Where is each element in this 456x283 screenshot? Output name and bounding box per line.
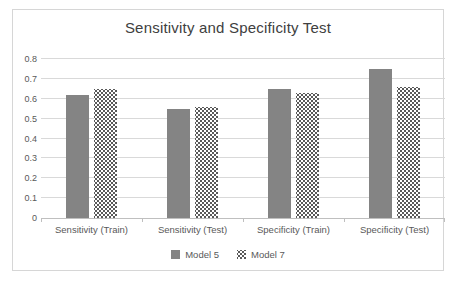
x-category-label: Sensitivity (Test) [142, 224, 243, 235]
x-axis-tick [142, 218, 143, 222]
bar-model-7-1 [94, 89, 117, 218]
y-tick-label: 0.4 [0, 134, 37, 144]
y-tick-label: 0.8 [0, 54, 37, 64]
chart-frame: Sensitivity and Specificity Test 00.10.2… [12, 9, 444, 271]
x-axis-tick [243, 218, 244, 222]
bar-group-1 [41, 59, 142, 218]
y-tick-label: 0.2 [0, 173, 37, 183]
legend: Model 5 Model 7 [13, 249, 443, 260]
bar-group-4 [344, 59, 445, 218]
plot-area: 00.10.20.30.40.50.60.70.8 [41, 59, 445, 219]
y-tick-label: 0.7 [0, 74, 37, 84]
y-tick-label: 0.3 [0, 153, 37, 163]
y-tick-label: 0.1 [0, 193, 37, 203]
bar-group-3 [243, 59, 344, 218]
x-category-label: Specificity (Test) [344, 224, 445, 235]
y-tick-label: 0.6 [0, 94, 37, 104]
bar-model-7-3 [296, 93, 319, 218]
bar-model-5-4 [369, 69, 392, 218]
legend-swatch-solid-icon [171, 250, 180, 259]
x-axis-labels: Sensitivity (Train)Sensitivity (Test)Spe… [41, 224, 445, 235]
legend-label: Model 7 [251, 249, 285, 260]
chart-title: Sensitivity and Specificity Test [13, 19, 443, 36]
y-tick-label: 0 [0, 213, 37, 223]
x-axis-tick [41, 218, 42, 222]
x-category-label: Specificity (Train) [243, 224, 344, 235]
legend-label: Model 5 [185, 249, 219, 260]
bar-groups [41, 59, 445, 218]
x-category-label: Sensitivity (Train) [41, 224, 142, 235]
x-axis-tick [344, 218, 345, 222]
y-tick-label: 0.5 [0, 114, 37, 124]
bar-model-5-3 [268, 89, 291, 218]
bar-group-2 [142, 59, 243, 218]
legend-swatch-dotted-icon [237, 250, 246, 259]
x-axis-tick [444, 218, 445, 222]
bar-model-7-2 [195, 107, 218, 218]
bar-model-7-4 [397, 87, 420, 218]
legend-item-model-7: Model 7 [237, 249, 285, 260]
bar-model-5-1 [66, 95, 89, 218]
legend-item-model-5: Model 5 [171, 249, 219, 260]
bar-model-5-2 [167, 109, 190, 218]
